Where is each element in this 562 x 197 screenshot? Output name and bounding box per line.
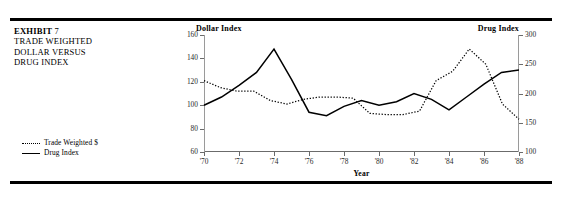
series-trade-weighted [204,49,519,119]
x-axis-title: Year [204,169,519,178]
x-tick [204,152,205,156]
x-tick-label: '74 [270,157,279,166]
right-tick [519,94,523,95]
top-rule [10,18,552,21]
left-tick-label: 100 [187,100,198,109]
exhibit-figure: EXHIBIT 7 TRADE WEIGHTED DOLLAR VERSUS D… [0,0,562,197]
x-tick [449,152,450,156]
legend-label: Drug Index [44,148,79,158]
right-tick-label: 100 [525,147,536,156]
caption-line-2: TRADE WEIGHTED [14,36,164,46]
x-tick-label: '82 [410,157,419,166]
x-tick [274,152,275,156]
x-tick [239,152,240,156]
x-tick [484,152,485,156]
exhibit-caption: EXHIBIT 7 TRADE WEIGHTED DOLLAR VERSUS D… [14,26,164,68]
exhibit-keyword: EXHIBIT [14,26,52,36]
right-tick-label: 150 [525,118,536,127]
x-tick [309,152,310,156]
left-axis-title: Dollar Index [196,24,242,33]
exhibit-label-line: EXHIBIT 7 [14,26,164,36]
left-tick-label: 120 [187,77,198,86]
caption-line-4: DRUG INDEX [14,57,164,67]
left-tick-label: 140 [187,53,198,62]
x-tick [344,152,345,156]
right-tick-label: 250 [525,59,536,68]
left-tick-label: 80 [191,124,198,133]
caption-line-3: DOLLAR VERSUS [14,47,164,57]
legend-item-trade-weighted: Trade Weighted $ [22,138,98,148]
x-tick-label: '72 [235,157,244,166]
right-tick [519,35,523,36]
x-tick-label: '78 [340,157,349,166]
right-tick-label: 200 [525,89,536,98]
dotted-line-swatch-icon [22,140,40,147]
x-tick-label: '86 [480,157,489,166]
legend-label: Trade Weighted $ [44,138,98,148]
x-tick [519,152,520,156]
right-tick [519,64,523,65]
right-tick-label: 300 [525,30,536,39]
right-axis-title: Drug Index [478,24,519,33]
right-tick [519,123,523,124]
bottom-rule [10,181,552,184]
series-lines [204,35,519,152]
plot-region: 6080100120140160 100150200250300 '70'72'… [204,35,519,152]
x-tick-label: '70 [200,157,209,166]
x-tick-label: '88 [515,157,524,166]
solid-line-swatch-icon [22,150,40,157]
left-tick-label: 60 [191,147,198,156]
x-tick [414,152,415,156]
exhibit-number: 7 [55,26,59,36]
left-tick-label: 160 [187,30,198,39]
legend-item-drug-index: Drug Index [22,148,98,158]
x-tick [379,152,380,156]
x-tick-label: '80 [375,157,384,166]
x-tick-label: '84 [445,157,454,166]
x-tick-label: '76 [305,157,314,166]
chart-area: Dollar Index Drug Index 6080100120140160… [176,24,548,172]
chart-legend: Trade Weighted $ Drug Index [22,138,98,158]
